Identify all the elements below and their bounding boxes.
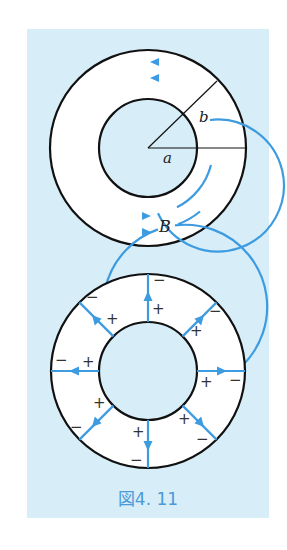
- svg-text:+: +: [190, 322, 203, 340]
- svg-text:−: −: [86, 288, 99, 306]
- svg-text:+: +: [178, 410, 191, 428]
- svg-text:−: −: [229, 371, 242, 389]
- svg-text:+: +: [93, 394, 106, 412]
- svg-text:+: +: [82, 353, 95, 371]
- label-B: B: [158, 217, 171, 236]
- figure-caption: 図4. 11: [118, 489, 178, 509]
- svg-text:+: +: [200, 373, 213, 391]
- svg-text:−: −: [55, 351, 68, 369]
- figure-canvas: a b B +: [0, 0, 287, 550]
- svg-text:−: −: [196, 430, 209, 448]
- label-a: a: [163, 149, 172, 167]
- svg-text:+: +: [152, 300, 165, 318]
- svg-text:+: +: [132, 423, 145, 441]
- inner-conductor-circle: [99, 322, 197, 420]
- svg-text:−: −: [130, 451, 143, 469]
- svg-text:−: −: [209, 302, 222, 320]
- svg-text:+: +: [106, 310, 119, 328]
- svg-text:−: −: [70, 418, 83, 436]
- svg-text:−: −: [153, 271, 166, 289]
- bottom-annulus-diagram: + + + + + + + + − − − − − − − −: [51, 271, 245, 469]
- label-b: b: [199, 108, 209, 126]
